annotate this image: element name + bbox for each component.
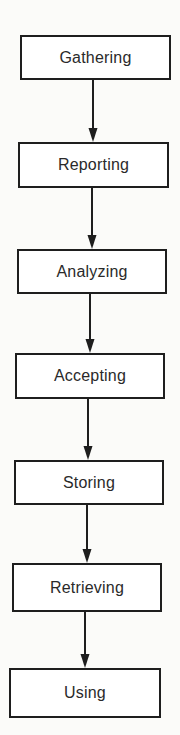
arrow-reporting-to-analyzing — [88, 188, 97, 249]
arrowhead-icon — [86, 339, 95, 353]
arrow-retrieving-to-using — [81, 612, 90, 668]
node-using: Using — [9, 668, 161, 718]
node-reporting: Reporting — [18, 142, 169, 188]
arrow-gathering-to-reporting — [89, 80, 98, 142]
arrow-storing-to-retrieving — [83, 505, 92, 563]
arrowhead-icon — [81, 654, 90, 668]
node-accepting: Accepting — [15, 353, 165, 399]
node-label: Reporting — [58, 157, 129, 173]
node-label: Accepting — [54, 368, 126, 384]
node-retrieving: Retrieving — [12, 563, 162, 612]
arrowhead-icon — [84, 446, 93, 460]
node-label: Analyzing — [56, 264, 127, 280]
arrowhead-icon — [89, 128, 98, 142]
node-label: Gathering — [59, 50, 131, 66]
node-gathering: Gathering — [20, 35, 171, 80]
arrowhead-icon — [88, 235, 97, 249]
flowchart: Gathering Reporting Analyzing Accepting … — [0, 0, 180, 735]
node-storing: Storing — [14, 460, 164, 505]
arrowhead-icon — [83, 549, 92, 563]
node-label: Retrieving — [50, 580, 124, 596]
arrow-analyzing-to-accepting — [86, 294, 95, 353]
node-label: Using — [64, 685, 106, 701]
node-label: Storing — [63, 475, 115, 491]
arrow-accepting-to-storing — [84, 399, 93, 460]
node-analyzing: Analyzing — [17, 249, 167, 294]
